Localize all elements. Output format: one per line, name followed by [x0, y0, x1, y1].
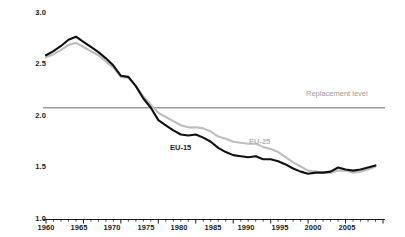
series-label-eu15: EU-15: [170, 144, 191, 152]
x-axis: [43, 220, 385, 224]
plot-area: [0, 0, 405, 237]
fertility-rate-chart: 3.0 2.5 2.0 1.5 1.0 1960 1965 1970 1975 …: [0, 0, 405, 237]
series-line-eu15: [46, 37, 376, 174]
x-axis-ticks: [46, 220, 383, 224]
replacement-level-label: Replacement level: [306, 90, 368, 98]
series-label-eu25: EU-25: [249, 138, 270, 146]
